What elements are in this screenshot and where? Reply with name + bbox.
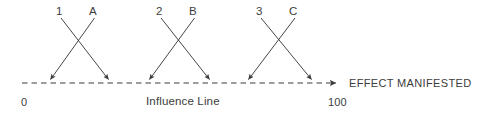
crossing-3-source-label: 3	[256, 6, 263, 18]
influence-line-caption: Influence Line	[146, 96, 220, 108]
crossing-group-1	[51, 18, 109, 80]
effect-manifested-label: EFFECT MANIFESTED	[349, 78, 471, 89]
influence-line-diagram: 1 A 2 B 3 C EFFECT MANIFESTED 0 Influenc…	[0, 0, 479, 122]
axis-label-right: 100	[328, 97, 347, 108]
crossing-3-target-label: C	[289, 6, 297, 18]
crossing-group-3	[249, 18, 312, 80]
crossing-2-line-from-target	[150, 18, 195, 80]
axis-label-left: 0	[21, 97, 27, 108]
crossing-2-target-label: B	[189, 6, 197, 18]
crossing-2-line-from-source	[161, 18, 210, 80]
crossing-2-source-label: 2	[156, 6, 163, 18]
crossing-1-line-from-source	[61, 18, 109, 80]
crossing-1-target-label: A	[89, 6, 97, 18]
crossing-3-line-from-source	[261, 18, 312, 80]
crossing-1-line-from-target	[51, 18, 95, 80]
crossing-group-2	[150, 18, 210, 80]
diagram-canvas	[0, 0, 479, 122]
crossing-1-source-label: 1	[56, 6, 63, 18]
crossing-3-line-from-target	[249, 18, 296, 80]
